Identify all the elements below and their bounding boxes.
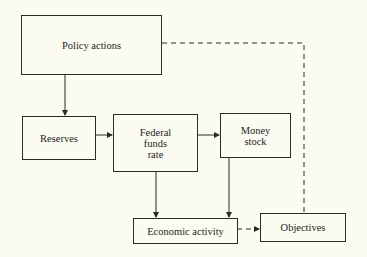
node-label: Reserves	[40, 133, 78, 144]
node-reserves: Reserves	[22, 116, 96, 160]
node-objectives: Objectives	[260, 213, 346, 242]
node-policy-actions: Policy actions	[21, 15, 162, 75]
node-label: Objectives	[281, 222, 326, 233]
node-label-line: stock	[244, 136, 266, 147]
node-money-stock: Money stock	[220, 113, 291, 158]
node-label: Policy actions	[62, 40, 121, 51]
node-federal-funds-rate: Federal funds rate	[113, 114, 198, 172]
node-label-line: rate	[148, 149, 164, 160]
flow-diagram: Policy actions Reserves Federal funds ra…	[0, 0, 367, 257]
node-label-line: funds	[144, 138, 167, 149]
node-label-line: Money	[241, 125, 271, 136]
node-economic-activity: Economic activity	[133, 218, 238, 244]
node-label: Economic activity	[147, 226, 224, 237]
node-label-line: Federal	[140, 127, 172, 138]
